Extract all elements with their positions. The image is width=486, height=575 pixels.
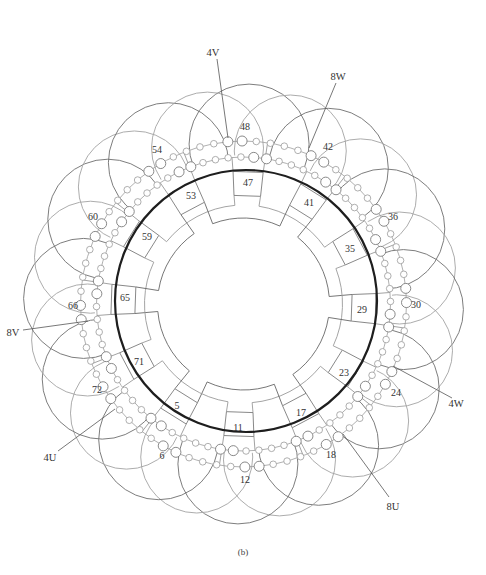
coil-node xyxy=(186,162,196,172)
coil-node xyxy=(310,448,317,455)
coil-lead xyxy=(376,292,390,293)
coil-node xyxy=(383,336,390,343)
coil-node xyxy=(93,303,100,310)
coil-node xyxy=(199,459,206,466)
coil-node xyxy=(106,363,116,373)
coil-node xyxy=(393,244,400,251)
coil-node xyxy=(403,313,410,320)
coil-node xyxy=(106,394,116,404)
coil-node xyxy=(114,376,121,383)
coil-node xyxy=(366,225,373,232)
coil-end-arcs xyxy=(24,84,464,524)
coil-node xyxy=(170,154,177,161)
coil-node xyxy=(129,397,136,404)
coil-node xyxy=(146,413,156,423)
slot-label-65: 65 xyxy=(120,292,130,303)
slot-label-42: 42 xyxy=(323,141,333,152)
slot-label-48: 48 xyxy=(240,121,250,132)
terminal-label-8U: 8U xyxy=(387,501,400,512)
coil-node xyxy=(106,241,113,248)
coil-node xyxy=(205,443,212,450)
coil-node xyxy=(295,147,302,154)
coil-node xyxy=(238,154,245,161)
coil-node xyxy=(171,447,181,457)
coil-node xyxy=(387,231,394,238)
coil-node xyxy=(88,358,95,365)
coil-node xyxy=(197,144,204,151)
terminal-label-4U: 4U xyxy=(44,452,57,463)
coil-node xyxy=(375,393,382,400)
slot-label-29: 29 xyxy=(357,304,367,315)
coil-node xyxy=(216,444,226,454)
coil-node xyxy=(237,136,247,146)
stator-bore-circle xyxy=(115,170,377,432)
coil-node xyxy=(76,315,86,325)
coil-node xyxy=(364,195,371,202)
coil-node xyxy=(180,435,187,442)
terminal-label-4V: 4V xyxy=(207,47,220,58)
slot-label-30: 30 xyxy=(411,299,421,310)
coil-node xyxy=(240,462,250,472)
coil-node xyxy=(366,404,373,411)
slot-label-66: 66 xyxy=(68,300,78,311)
coil-node xyxy=(342,195,349,202)
coil-node xyxy=(359,214,366,221)
coil-node xyxy=(79,274,86,281)
coil-node xyxy=(114,197,121,204)
coil-node xyxy=(394,355,401,362)
terminal-label-8V: 8V xyxy=(7,327,20,338)
coil-node xyxy=(99,341,106,348)
coil-node xyxy=(306,151,316,161)
coil-node xyxy=(401,298,411,308)
coil-node xyxy=(281,442,288,449)
coil-node xyxy=(385,273,392,280)
coil-node xyxy=(300,166,307,173)
coil-node xyxy=(331,185,341,195)
coil-node xyxy=(192,440,199,447)
coil-node xyxy=(228,446,238,456)
coil-node xyxy=(138,406,145,413)
coil-end-arc xyxy=(70,357,182,469)
coil-node xyxy=(121,387,128,394)
coil-node xyxy=(186,454,193,461)
coil-node xyxy=(371,204,381,214)
leader-4V xyxy=(217,59,228,138)
stator-winding-diagram: 47 41 35 29 23 17 11 5 71 65 59 53 48 42… xyxy=(0,0,486,575)
coil-node xyxy=(174,167,184,177)
coil-node xyxy=(268,445,275,452)
coil-node xyxy=(344,175,351,182)
coil-node xyxy=(369,372,376,379)
coil-node xyxy=(117,217,127,227)
leader-8V xyxy=(23,321,88,330)
coil-node xyxy=(154,182,161,189)
slot-label-12: 12 xyxy=(240,474,250,485)
coil-end-arc xyxy=(297,365,409,477)
coil-node xyxy=(253,138,260,145)
coil-node xyxy=(371,235,381,245)
coil-node xyxy=(90,231,100,241)
terminal-label-4W: 4W xyxy=(448,398,463,409)
coil-node xyxy=(126,417,133,424)
coil-node xyxy=(200,159,207,166)
slot-label-36: 36 xyxy=(388,211,398,222)
coil-node xyxy=(225,155,232,162)
coil-node xyxy=(106,208,113,215)
coil-node xyxy=(270,461,277,468)
coil-node xyxy=(262,154,272,164)
coil-node xyxy=(83,344,90,351)
group-connection-arc xyxy=(197,382,282,406)
coil-node xyxy=(82,260,89,267)
coil-node xyxy=(319,157,329,167)
coil-node xyxy=(78,288,85,295)
coil-node xyxy=(156,159,166,169)
coil-node xyxy=(212,156,219,163)
coil-node xyxy=(288,162,295,169)
coil-node xyxy=(98,265,105,272)
coil-node xyxy=(333,432,343,442)
coil-node xyxy=(398,342,405,349)
coil-node xyxy=(346,403,353,410)
coil-node xyxy=(169,429,176,436)
coil-node xyxy=(213,461,220,468)
coil-node xyxy=(303,431,313,441)
coil-node xyxy=(333,166,340,173)
